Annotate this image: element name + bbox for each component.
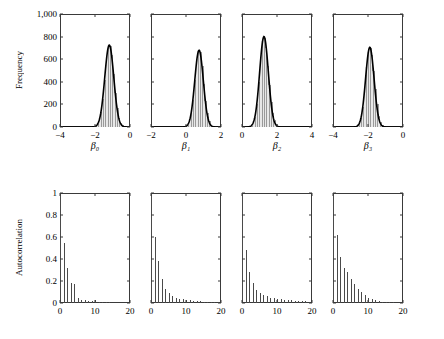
y-tick-label: 200 bbox=[44, 99, 61, 109]
y-tick-mark bbox=[218, 259, 221, 260]
acf-stem bbox=[382, 302, 383, 303]
acf-stem bbox=[246, 250, 247, 303]
x-tick-label: 10 bbox=[91, 303, 100, 316]
x-tick-label: 0 bbox=[401, 127, 406, 140]
y-tick-mark bbox=[242, 215, 245, 216]
y-tick-mark bbox=[218, 104, 221, 105]
acf-stem bbox=[365, 295, 366, 303]
y-tick-mark bbox=[333, 281, 336, 282]
acf-stem bbox=[291, 300, 292, 303]
y-tick-mark bbox=[60, 237, 63, 238]
x-tick-mark bbox=[60, 14, 61, 17]
acf-stem bbox=[106, 302, 107, 303]
x-tick-mark bbox=[130, 14, 131, 17]
y-tick-mark bbox=[333, 237, 336, 238]
acf-stem bbox=[109, 302, 110, 303]
x-tick-mark bbox=[151, 193, 152, 196]
acf-stem bbox=[260, 293, 261, 303]
plot-area bbox=[151, 14, 221, 127]
y-tick-label: 0.6 bbox=[46, 232, 60, 242]
acf-stem bbox=[102, 302, 103, 303]
acf-stem bbox=[305, 301, 306, 303]
y-tick-label: 0.4 bbox=[46, 254, 60, 264]
x-tick-label: −4 bbox=[328, 127, 338, 140]
density-curve bbox=[333, 47, 403, 127]
y-tick-mark bbox=[127, 281, 130, 282]
acf-stem bbox=[172, 296, 173, 303]
x-tick-label: 0 bbox=[58, 303, 63, 316]
y-tick-mark bbox=[218, 59, 221, 60]
y-tick-mark bbox=[151, 237, 154, 238]
x-tick-label: 2 bbox=[219, 127, 224, 140]
autocorrelation-beta1: 01020 bbox=[151, 193, 221, 303]
acf-stem bbox=[284, 300, 285, 303]
x-tick-mark bbox=[242, 193, 243, 196]
acf-stem bbox=[386, 302, 387, 303]
y-tick-mark bbox=[309, 215, 312, 216]
y-tick-mark bbox=[218, 237, 221, 238]
y-tick-mark bbox=[309, 237, 312, 238]
x-tick-label: 4 bbox=[310, 127, 315, 140]
autocorrelation-beta2: 01020 bbox=[242, 193, 312, 303]
histogram-beta1: −202β₁ bbox=[151, 14, 221, 127]
x-tick-label: 0 bbox=[240, 127, 245, 140]
x-axis-label: β₁ bbox=[182, 140, 190, 151]
x-tick-mark bbox=[60, 193, 61, 196]
y-tick-mark bbox=[60, 215, 63, 216]
y-tick-mark bbox=[151, 104, 154, 105]
x-tick-mark bbox=[130, 193, 131, 196]
acf-stem bbox=[393, 302, 394, 303]
acf-stem bbox=[88, 301, 89, 303]
x-tick-label: −2 bbox=[363, 127, 373, 140]
acf-stem bbox=[333, 193, 334, 303]
acf-stem bbox=[158, 261, 159, 303]
x-tick-mark bbox=[95, 193, 96, 196]
acf-stem bbox=[214, 302, 215, 303]
acf-stem bbox=[116, 303, 117, 304]
acf-stem bbox=[155, 237, 156, 303]
acf-stem bbox=[256, 290, 257, 303]
y-tick-mark bbox=[242, 59, 245, 60]
y-tick-mark bbox=[60, 36, 63, 37]
acf-stem bbox=[120, 303, 121, 304]
acf-stem bbox=[242, 193, 243, 303]
x-tick-label: 20 bbox=[126, 303, 135, 316]
acf-stem bbox=[179, 299, 180, 303]
plot-area bbox=[333, 193, 403, 303]
y-tick-mark bbox=[333, 104, 336, 105]
x-tick-label: 10 bbox=[273, 303, 282, 316]
x-axis-label: β₃ bbox=[364, 140, 372, 151]
y-tick-mark bbox=[151, 81, 154, 82]
x-tick-label: 2 bbox=[275, 127, 280, 140]
acf-stem bbox=[249, 272, 250, 303]
acf-stem bbox=[270, 298, 271, 304]
y-tick-mark bbox=[151, 259, 154, 260]
y-tick-mark bbox=[333, 215, 336, 216]
y-tick-mark bbox=[333, 259, 336, 260]
acf-stem bbox=[361, 292, 362, 303]
y-tick-label: 400 bbox=[44, 77, 61, 87]
acf-stem bbox=[351, 279, 352, 303]
y-tick-mark bbox=[127, 215, 130, 216]
acf-stem bbox=[344, 268, 345, 303]
x-tick-label: 20 bbox=[399, 303, 408, 316]
x-tick-mark bbox=[403, 193, 404, 196]
y-tick-mark bbox=[218, 81, 221, 82]
y-tick-mark bbox=[400, 259, 403, 260]
y-tick-mark bbox=[242, 104, 245, 105]
x-tick-mark bbox=[221, 193, 222, 196]
y-tick-mark bbox=[400, 36, 403, 37]
y-tick-mark bbox=[151, 36, 154, 37]
y-tick-mark bbox=[400, 104, 403, 105]
plot-area bbox=[151, 193, 221, 303]
x-tick-mark bbox=[403, 14, 404, 17]
x-tick-mark bbox=[242, 14, 243, 17]
y-tick-mark bbox=[309, 36, 312, 37]
acf-stem bbox=[176, 298, 177, 304]
histogram-beta2: 024β₂ bbox=[242, 14, 312, 127]
acf-stem bbox=[211, 302, 212, 303]
y-tick-mark bbox=[127, 237, 130, 238]
y-tick-mark bbox=[309, 81, 312, 82]
y-tick-mark bbox=[400, 81, 403, 82]
y-tick-mark bbox=[127, 259, 130, 260]
